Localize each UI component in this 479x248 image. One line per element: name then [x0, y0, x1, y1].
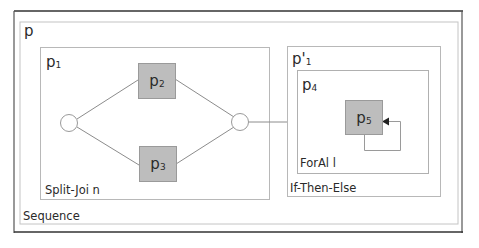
- process-node-p2[interactable]: p2: [138, 63, 176, 99]
- process-node-p5[interactable]: p5: [345, 100, 383, 135]
- join-node-icon: [232, 114, 249, 131]
- forall-caption: ForAl l: [300, 158, 336, 170]
- if-then-else-label: p'1: [292, 52, 311, 67]
- loop-arrow-icon: [382, 118, 389, 126]
- edge-p2-to-join: [175, 79, 234, 117]
- split-join-caption: Split-Joi n: [45, 185, 100, 197]
- if-then-else-caption: If-Then-Else: [290, 183, 356, 195]
- edge-split-to-p3: [77, 127, 139, 165]
- sequence-caption: Sequence: [23, 211, 80, 223]
- split-join-label: p1: [46, 55, 61, 70]
- process-node-p3[interactable]: p3: [139, 146, 177, 182]
- edge-split-to-p2: [77, 80, 138, 119]
- edge-p3-to-join: [176, 127, 234, 164]
- sequence-label: p: [24, 24, 34, 39]
- forall-label: p4: [302, 78, 317, 93]
- split-node-icon: [61, 115, 78, 132]
